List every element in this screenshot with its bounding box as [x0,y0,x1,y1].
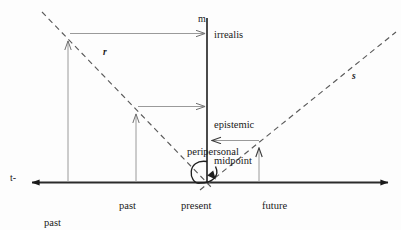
time-label-past: past [119,200,136,211]
time-label-past-perfect-line1: past [44,217,73,229]
time-label-past-perfect: past perfect [44,193,73,230]
diagonal-label-s: s [352,72,356,82]
time-label-present: present [181,200,211,211]
level-label-peripersonal: peripersonal [187,146,239,157]
time-label-future: future [262,200,287,211]
diagram-canvas: m t- r s irrealis epistemic midpoint per… [0,0,401,230]
level-label-irrealis: irrealis [214,29,243,40]
time-axis-label-t: t- [10,173,16,184]
level-label-epistemic-midpoint: epistemic midpoint [214,95,254,192]
modal-axis-label-m: m [198,14,206,25]
level-label-epistemic-midpoint-line1: epistemic [214,119,254,131]
diagonal-label-r: r [103,48,107,58]
level-label-epistemic-midpoint-line2: midpoint [214,155,254,167]
